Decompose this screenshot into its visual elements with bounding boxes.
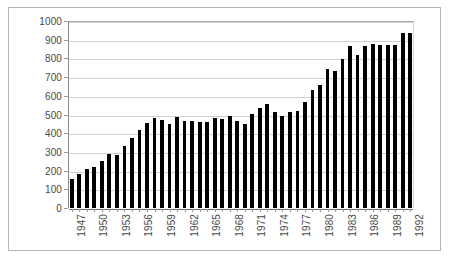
bar <box>378 45 382 208</box>
x-axis-tick-label: 1962 <box>189 214 200 237</box>
bar <box>401 33 405 208</box>
x-axis-tick <box>358 209 359 212</box>
x-axis-tick <box>215 209 216 212</box>
bar <box>311 90 315 208</box>
bar <box>190 121 194 208</box>
x-axis-tick <box>297 209 298 212</box>
bar <box>175 117 179 208</box>
x-axis-tick <box>335 209 336 212</box>
x-axis-tick <box>177 209 178 212</box>
x-axis-tick <box>312 209 313 212</box>
x-axis-tick-label: 1965 <box>211 214 222 237</box>
y-axis-tick-label: 0 <box>56 203 62 214</box>
y-axis-tick-label: 900 <box>45 34 62 45</box>
bar <box>228 116 232 208</box>
y-axis-tick-label: 1000 <box>39 16 62 27</box>
x-axis-tick <box>192 209 193 212</box>
bar <box>138 130 142 208</box>
bar <box>371 44 375 208</box>
x-axis-tick <box>275 209 276 212</box>
x-axis-tick <box>139 209 140 212</box>
x-axis-tick <box>102 209 103 212</box>
x-axis-tick <box>320 209 321 212</box>
bar <box>341 59 345 208</box>
bar <box>265 104 269 208</box>
plot-wrapper <box>68 21 414 208</box>
x-axis-tick <box>403 209 404 212</box>
x-axis-tick <box>185 209 186 212</box>
bar <box>296 111 300 208</box>
bar <box>213 118 217 208</box>
y-axis-tick-label: 100 <box>45 184 62 195</box>
bar <box>100 161 104 208</box>
bar <box>288 112 292 208</box>
y-axis-tick-label: 300 <box>45 146 62 157</box>
bar <box>168 124 172 208</box>
bar <box>326 69 330 208</box>
bar <box>205 122 209 208</box>
x-axis-tick-label: 1983 <box>347 214 358 237</box>
x-axis-tick-label: 1977 <box>301 214 312 237</box>
x-axis-tick-label: 1947 <box>76 214 87 237</box>
y-axis-tick-label: 200 <box>45 165 62 176</box>
x-axis-tick <box>290 209 291 212</box>
bar <box>363 46 367 208</box>
x-axis-tick-label: 1968 <box>234 214 245 237</box>
x-axis-tick <box>260 209 261 212</box>
x-axis-tick <box>132 209 133 212</box>
x-axis-tick <box>365 209 366 212</box>
x-axis-tick-label: 1980 <box>324 214 335 237</box>
x-axis-tick <box>380 209 381 212</box>
bar <box>198 122 202 208</box>
x-axis-tick <box>410 209 411 212</box>
bar <box>348 46 352 208</box>
y-axis-tick-label: 700 <box>45 72 62 83</box>
bar <box>130 138 134 208</box>
x-axis-tick <box>343 209 344 212</box>
bar <box>107 154 111 208</box>
bar <box>183 121 187 208</box>
x-axis-tick <box>395 209 396 212</box>
x-axis: 1947195019531956195919621965196819711974… <box>68 209 414 251</box>
x-axis-tick <box>124 209 125 212</box>
bar <box>77 174 81 208</box>
x-axis-tick-label: 1989 <box>392 214 403 237</box>
x-axis-tick <box>147 209 148 212</box>
y-axis-tick-label: 800 <box>45 53 62 64</box>
bar <box>115 155 119 208</box>
bar <box>318 85 322 208</box>
bar <box>243 124 247 208</box>
chart-frame: 01002003004005006007008009001000 1947195… <box>8 7 441 251</box>
bar-series <box>68 21 414 208</box>
x-axis-tick <box>328 209 329 212</box>
bar <box>145 123 149 208</box>
x-axis-tick <box>373 209 374 212</box>
bar <box>85 169 89 208</box>
x-axis-tick <box>230 209 231 212</box>
x-axis-tick-label: 1953 <box>121 214 132 237</box>
bar <box>273 112 277 208</box>
x-axis-tick-label: 1971 <box>256 214 267 237</box>
x-axis-tick <box>267 209 268 212</box>
x-axis-tick-label: 1992 <box>414 214 425 237</box>
bar <box>160 120 164 208</box>
bar <box>393 45 397 208</box>
x-axis-tick <box>350 209 351 212</box>
x-axis-tick <box>207 209 208 212</box>
x-axis-tick <box>79 209 80 212</box>
bar <box>303 102 307 208</box>
x-axis-tick <box>109 209 110 212</box>
x-axis-tick <box>305 209 306 212</box>
bar <box>70 179 74 208</box>
x-axis-tick <box>94 209 95 212</box>
y-axis-tick-label: 600 <box>45 90 62 101</box>
bar <box>153 118 157 208</box>
x-axis-tick <box>282 209 283 212</box>
x-axis-tick <box>117 209 118 212</box>
x-axis-tick <box>222 209 223 212</box>
x-axis-tick-label: 1986 <box>369 214 380 237</box>
x-axis-tick-label: 1956 <box>143 214 154 237</box>
bar <box>280 116 284 208</box>
bar <box>386 45 390 208</box>
x-axis-tick <box>245 209 246 212</box>
